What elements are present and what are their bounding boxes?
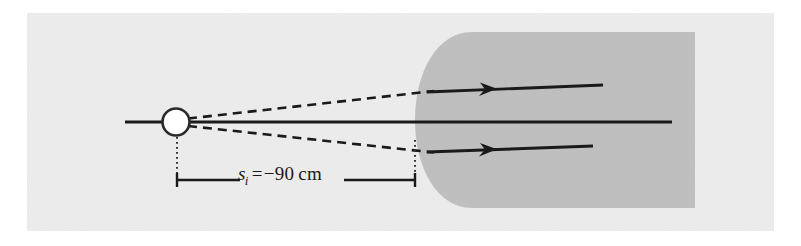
ray-diagram-canvas [0,0,801,246]
dimension-equals: = [252,163,263,184]
dimension-subscript: i [245,173,249,188]
dimension-minus-sign: − [264,163,275,184]
dimension-label: si=−90cm [238,163,322,189]
image-point-marker [163,109,190,136]
dimension-unit: cm [298,163,322,184]
dimension-value: 90 [275,163,295,184]
optics-figure: si=−90cm [0,0,801,246]
